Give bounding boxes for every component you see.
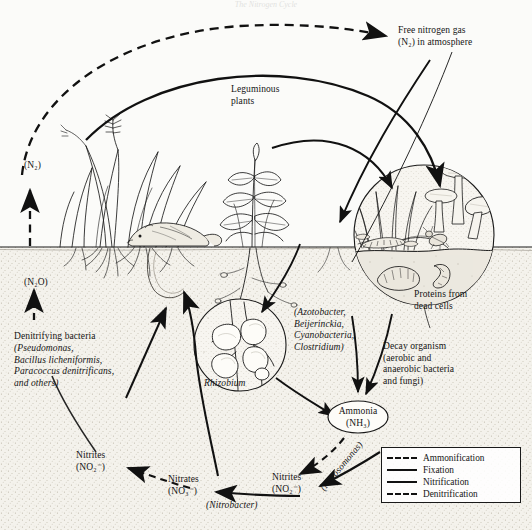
legend-label-fixation: Fixation [423, 465, 454, 475]
legend-label-nitrification: Nitrification [423, 477, 469, 487]
arrow-denitrification-to-atmosphere [22, 25, 386, 175]
legend-row-fixation: Fixation [387, 464, 515, 476]
label-nitrites-right: Nitrites (NO₂⁻) [272, 472, 301, 495]
legend-swatch-denitrification [387, 493, 417, 495]
leguminous-plant-center [220, 143, 289, 247]
label-denitrifying-species: (Pseudomonas, Bacillus licheniformis, Pa… [14, 343, 114, 389]
label-free-nitrogen-gas: Free nitrogen gas (N₂) in atmosphere [398, 25, 472, 48]
label-proteins-dead-cells: Proteins from dead cells [414, 289, 467, 312]
legend-row-nitrification: Nitrification [387, 476, 515, 488]
label-ammonia: Ammonia (NH₃) [330, 406, 386, 429]
legend-label-ammonification: Ammonification [423, 453, 484, 463]
legend-swatch-nitrification [387, 481, 417, 483]
nitrogen-cycle-figure: The Nitrogen Cycle [0, 0, 532, 530]
label-decay-organism: Decay organism (aerobic and anaerobic ba… [383, 341, 454, 387]
legend-row-denitrification: Denitrification [387, 488, 515, 500]
mole-rodent [127, 223, 222, 246]
legend-label-denitrification: Denitrification [423, 489, 478, 499]
label-n2o-left: (N₂O) [24, 277, 48, 289]
label-nitrobacter: (Nitrobacter) [206, 500, 258, 512]
legend-swatch-fixation [387, 469, 417, 471]
label-leguminous-plants: Leguminous plants [231, 84, 280, 107]
legend-box: Ammonification Fixation Nitrification De… [381, 447, 521, 503]
label-denitrifying-bacteria: Denitrifying bacteria [14, 331, 96, 343]
legend-row-ammonification: Ammonification [387, 452, 515, 464]
arrow-fixation-legume [272, 140, 392, 188]
label-nitrates-center: Nitrates (NO₃⁻) [168, 474, 199, 497]
label-free-living-fixers: (Azotobacter, Beijerinckia, Cyanobacteri… [294, 307, 354, 353]
label-n2-left: (N₂) [24, 160, 41, 172]
label-nitrites-left: Nitrites (NO₂⁻) [76, 450, 105, 473]
label-rhizobium: Rhizobium [204, 378, 246, 390]
legend-swatch-ammonification [387, 457, 417, 459]
